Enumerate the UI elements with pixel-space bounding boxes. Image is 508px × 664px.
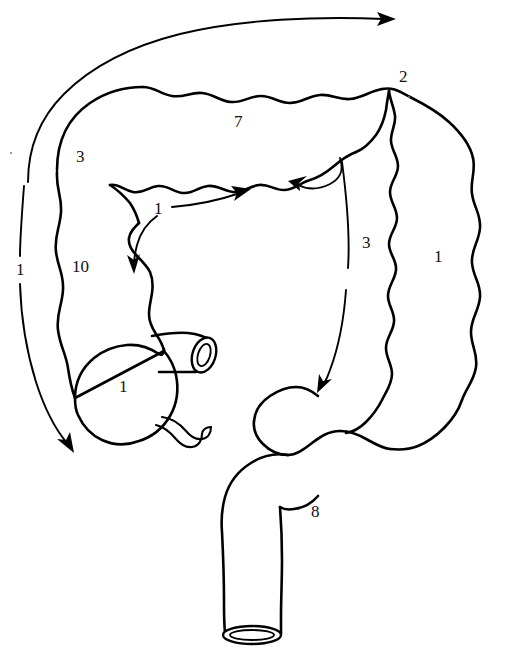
label-ascend-10: 10 (72, 258, 89, 275)
anal-canal-lumen-inner (230, 630, 274, 640)
colon-anatomy-figure: 1 3 7 2 1 3 1 10 1 8 (0, 0, 508, 664)
scan-speck (10, 152, 12, 154)
hepatic-flexure-outline (143, 87, 382, 103)
label-splenic-2: 2 (399, 68, 408, 85)
arrow-lower-down (317, 162, 349, 393)
label-left-1: 1 (16, 261, 25, 278)
label-descend-1: 1 (434, 248, 443, 265)
arrow-left-down (20, 186, 74, 453)
arrow-mid-down (127, 216, 157, 274)
colon-drawing-svg (0, 0, 508, 664)
label-mid-3: 3 (362, 234, 371, 251)
label-transverse-7: 7 (234, 113, 243, 130)
sigmoid-colon-outline (254, 387, 444, 455)
rectum-outline (222, 454, 318, 644)
label-sigmoid-8: 8 (311, 503, 320, 520)
appendix-outline (156, 417, 211, 447)
scan-speck (408, 96, 410, 98)
arrow-mid-right (172, 186, 251, 207)
transverse-colon-inner-outline (110, 91, 389, 193)
splenic-flexure-outline (382, 89, 480, 428)
label-mid-1: 1 (154, 200, 163, 217)
descending-colon-inner-outline (346, 91, 398, 433)
arrow-upper-left (288, 158, 342, 191)
label-hepatic-3: 3 (76, 148, 85, 165)
label-cecum-1: 1 (119, 378, 128, 395)
